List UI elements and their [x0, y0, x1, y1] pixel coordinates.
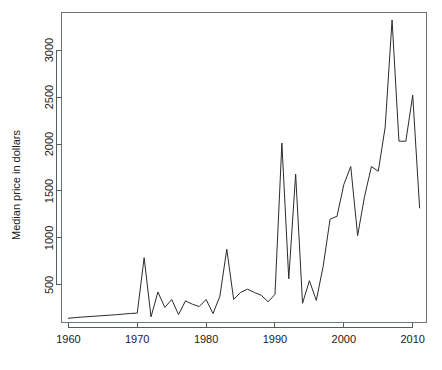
x-tick-label: 1990: [263, 333, 287, 345]
y-tick-label: 3000: [43, 38, 55, 62]
x-tick-label: 1970: [125, 333, 149, 345]
y-tick-label: 1000: [43, 226, 55, 250]
plot-frame: [62, 13, 427, 323]
x-axis: 196019701980199020002010: [56, 323, 425, 346]
series-line-median-price: [68, 20, 419, 318]
y-tick-label: 1500: [43, 179, 55, 203]
y-tick-label: 2000: [43, 132, 55, 156]
chart-page: 50010001500200025003000 1960197019801990…: [0, 0, 442, 370]
y-tick-label: 500: [43, 276, 55, 294]
line-chart: 50010001500200025003000 1960197019801990…: [0, 0, 442, 370]
x-tick-label: 2010: [400, 333, 424, 345]
y-tick-label: 2500: [43, 85, 55, 109]
y-axis-title: Median price in dollars: [10, 129, 22, 240]
x-tick-label: 1960: [56, 333, 80, 345]
x-tick-label: 1980: [194, 333, 218, 345]
y-axis: 50010001500200025003000: [43, 38, 62, 294]
x-tick-label: 2000: [332, 333, 356, 345]
